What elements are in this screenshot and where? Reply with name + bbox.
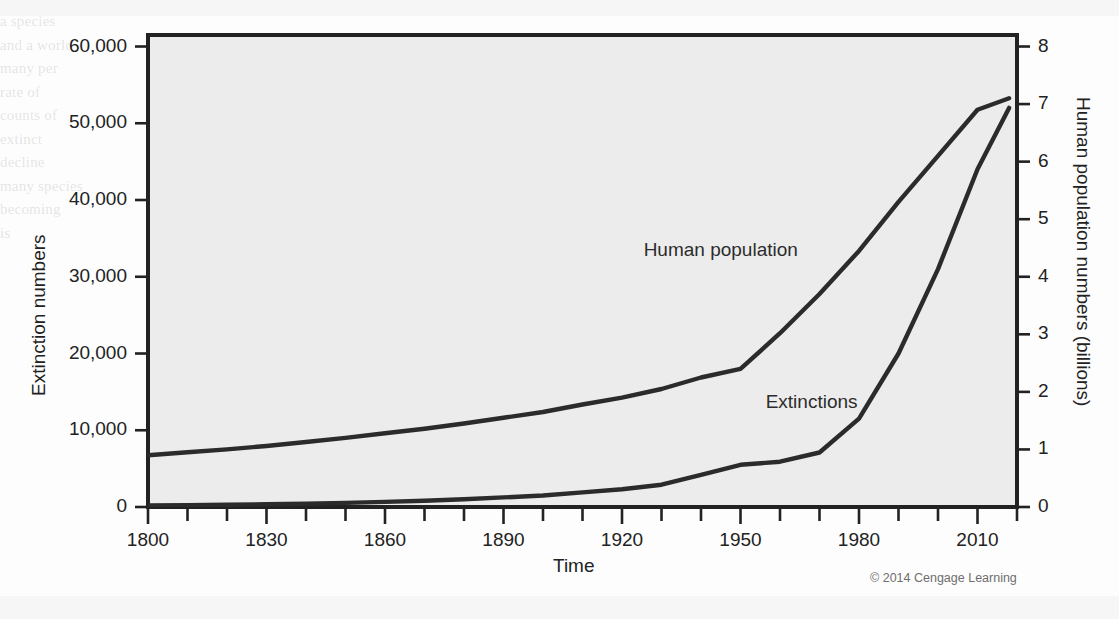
y-tick-label-left: 0 xyxy=(31,495,127,517)
x-tick-label: 1830 xyxy=(227,529,307,551)
x-tick-label: 1800 xyxy=(108,529,188,551)
y-tick-label-right: 2 xyxy=(1038,380,1078,402)
y-tick-label-left: 50,000 xyxy=(31,111,127,133)
y-tick-label-right: 6 xyxy=(1038,150,1078,172)
y-tick-label-right: 8 xyxy=(1038,35,1078,57)
x-tick-label: 1860 xyxy=(345,529,425,551)
y-tick-label-right: 7 xyxy=(1038,92,1078,114)
chart-plot-area xyxy=(0,0,1119,619)
copyright-credit: © 2014 Cengage Learning xyxy=(870,571,1017,585)
x-tick-label: 1950 xyxy=(701,529,781,551)
x-tick-label: 1980 xyxy=(819,529,899,551)
y-tick-label-right: 5 xyxy=(1038,207,1078,229)
x-tick-label: 1920 xyxy=(582,529,662,551)
y-tick-label-right: 4 xyxy=(1038,265,1078,287)
y-tick-label-left: 30,000 xyxy=(31,265,127,287)
x-tick-label: 2010 xyxy=(938,529,1018,551)
x-axis-title: Time xyxy=(553,555,595,577)
y-axis-right-title: Human population numbers (billions) xyxy=(1072,97,1094,406)
y-tick-label-left: 40,000 xyxy=(31,188,127,210)
y-tick-label-left: 20,000 xyxy=(31,342,127,364)
plot-background xyxy=(148,35,1017,507)
series-annotation-extinctions: Extinctions xyxy=(766,391,858,413)
y-tick-label-right: 3 xyxy=(1038,322,1078,344)
series-annotation-human-population: Human population xyxy=(644,239,798,261)
y-tick-label-right: 0 xyxy=(1038,495,1078,517)
y-tick-label-left: 60,000 xyxy=(31,35,127,57)
y-tick-label-left: 10,000 xyxy=(31,418,127,440)
y-tick-label-right: 1 xyxy=(1038,437,1078,459)
figure-container: a species and a world many per rate of c… xyxy=(0,0,1119,619)
x-tick-label: 1890 xyxy=(464,529,544,551)
y-axis-left-title: Extinction numbers xyxy=(28,234,50,396)
